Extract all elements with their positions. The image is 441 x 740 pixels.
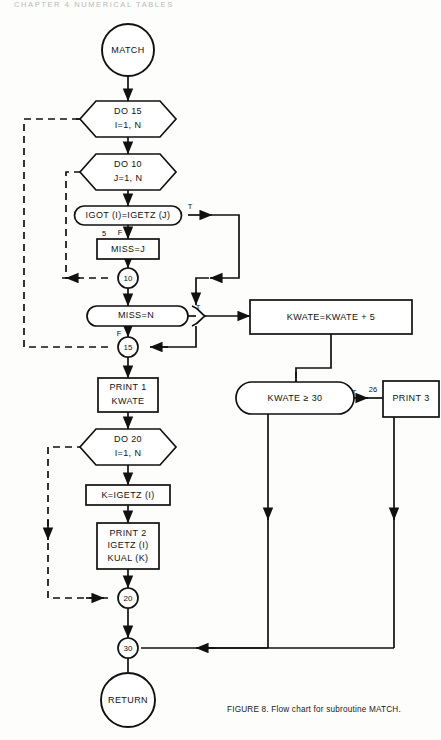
edge-merge-return-to-conn15	[160, 326, 196, 347]
loop-do20-line2: I=1, N	[115, 448, 142, 458]
statement-number-5: 5	[102, 229, 106, 238]
decision-igot-true-label: T	[188, 202, 193, 211]
process-print1-line2: KWATE	[112, 396, 145, 406]
connector-30-label: 30	[124, 644, 133, 653]
process-print2-line3: KUAL (K)	[108, 553, 149, 563]
process-missj-label: MISS=J	[111, 244, 145, 254]
loop-do15-line1: DO 15	[114, 106, 142, 116]
decision-missn-true-label: T	[196, 303, 201, 312]
statement-number-26: 26	[369, 385, 377, 394]
loop-do15-line2: I=1, N	[115, 120, 142, 130]
decision-igot-label: IGOT (I)=IGETZ (J)	[86, 210, 171, 220]
edge-igot-true-down	[196, 278, 209, 296]
edge-kwateadd-to-kwatecmp	[296, 334, 331, 378]
connector-10-label: 10	[124, 274, 133, 283]
process-kwate-add-label: KWATE=KWATE + 5	[287, 312, 376, 322]
decision-igot-false-label: F	[118, 228, 123, 237]
figure-page: CHAPTER 4 NUMERICAL TABLES	[0, 0, 441, 740]
process-kigetz-label: K=IGETZ (I)	[101, 490, 154, 500]
flowchart-canvas: MATCH DO 15 I=1, N DO 10 J=1, N IGOT (I)…	[0, 0, 441, 740]
terminal-start-label: MATCH	[111, 45, 144, 55]
loop-do20-line1: DO 20	[114, 434, 142, 444]
decision-kwate-true-label: T	[352, 388, 357, 397]
figure-caption: FIGURE 8. Flow chart for subroutine MATC…	[227, 705, 401, 714]
process-print2-line2: IGETZ (I)	[107, 540, 148, 550]
connector-15-label: 15	[124, 343, 133, 352]
process-print2-line1: PRINT 2	[109, 528, 146, 538]
loop-do10-line1: DO 10	[114, 159, 142, 169]
decision-kwate-threshold-label: KWATE ≥ 30	[268, 393, 323, 403]
terminal-return-label: RETURN	[108, 695, 148, 705]
edge-igot-true-route	[212, 215, 239, 278]
decision-missn-label: MISS=N	[118, 310, 154, 320]
decision-missn-false-label: F	[117, 329, 122, 338]
process-print3-label: PRINT 3	[392, 393, 429, 403]
loop-do10-line2: J=1, N	[114, 173, 143, 183]
connector-20-label: 20	[124, 594, 133, 603]
process-print1-line1: PRINT 1	[109, 382, 146, 392]
